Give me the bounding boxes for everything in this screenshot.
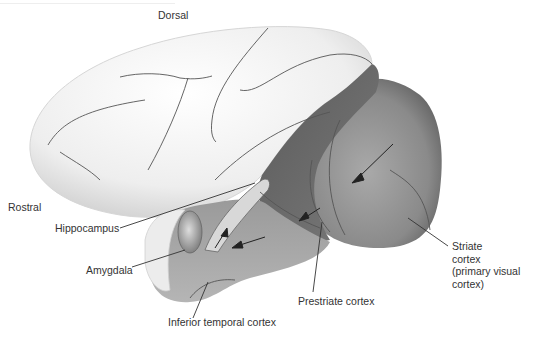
amygdala-label: Amygdala (86, 264, 133, 277)
brain-diagram: Dorsal Rostral Hippocampus Amygdala Infe… (0, 0, 533, 342)
brain-illustration (0, 0, 533, 342)
striate-line-1: Striate (452, 240, 520, 253)
hippocampus-label: Hippocampus (55, 222, 119, 235)
prestriate-cortex-label: Prestriate cortex (298, 295, 374, 308)
striate-line-3: (primary visual (452, 265, 520, 278)
inferior-temporal-cortex-label: Inferior temporal cortex (168, 316, 276, 329)
dorsal-label: Dorsal (158, 9, 188, 22)
striate-line-2: cortex (452, 253, 520, 266)
amygdala-structure (178, 211, 202, 253)
striate-line-4: cortex) (452, 278, 520, 291)
striate-cortex-label: Striate cortex (primary visual cortex) (452, 240, 520, 290)
rostral-label: Rostral (8, 201, 41, 214)
